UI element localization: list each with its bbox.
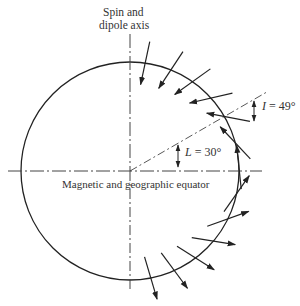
equator-label: Magnetic and geographic equator <box>62 178 210 191</box>
axis-label-line1: Spin and <box>99 6 149 19</box>
latitude-label: L = 30° <box>185 146 221 159</box>
inclination-label: I = 49° <box>262 100 296 113</box>
field-arrow <box>161 253 187 288</box>
field-arrow <box>207 211 248 226</box>
field-arrow <box>224 176 249 212</box>
latitude-value: = 30° <box>192 145 222 159</box>
inclination-value: = 49° <box>266 99 296 113</box>
field-arrow <box>145 257 158 299</box>
field-arrow <box>190 93 233 103</box>
latitude-symbol: L <box>185 145 192 159</box>
field-arrow <box>192 238 235 245</box>
field-arrow <box>159 52 183 89</box>
axis-label-line2: dipole axis <box>99 19 149 32</box>
field-arrow <box>175 69 211 95</box>
dipole-field-diagram <box>0 0 300 306</box>
latitude-radial-line <box>130 91 269 171</box>
spin-dipole-axis-label: Spin and dipole axis <box>99 6 149 32</box>
field-arrow <box>220 127 250 159</box>
